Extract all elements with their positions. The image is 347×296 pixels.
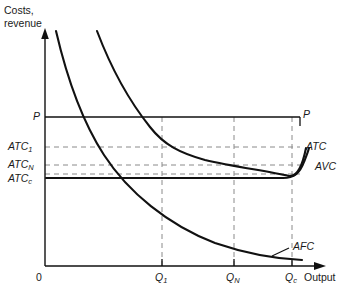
y-axis-title-line2: revenue <box>4 17 42 29</box>
y-axis-title-line1: Costs, <box>4 4 34 16</box>
atc-curve <box>97 31 306 176</box>
x-axis-arrow <box>314 262 326 270</box>
y-tick-sub-atc-n: N <box>28 163 33 172</box>
x-tick-label-q-n: QN <box>226 271 240 283</box>
y-tick-label-atc-n: ATCN <box>8 158 34 170</box>
x-tick-base-q-1: Q <box>155 271 163 283</box>
y-tick-label-atc-c: ATCc <box>8 172 32 184</box>
price-line-label: P <box>303 108 310 120</box>
x-tick-base-q-c: Q <box>285 271 293 283</box>
vertical-guide-lines <box>162 117 292 266</box>
afc-leader-line <box>272 248 289 256</box>
afc-curve-label: AFC <box>293 240 314 252</box>
y-axis-title: Costs,revenue <box>4 4 42 30</box>
x-tick-label-q-1: Q1 <box>155 271 167 283</box>
y-tick-label-price: P <box>33 110 40 122</box>
y-tick-sub-atc-1: 1 <box>28 145 32 154</box>
atc-curve-label: ATC <box>306 140 326 152</box>
origin-label: 0 <box>36 271 42 283</box>
y-tick-sub-atc-c: c <box>28 177 32 186</box>
avc-curve-label: AVC <box>315 160 336 172</box>
x-axis-ticks <box>162 259 292 266</box>
x-tick-label-q-c: Qc <box>285 271 297 283</box>
y-axis-arrow <box>41 28 49 39</box>
y-tick-base-atc-c: ATC <box>8 172 28 184</box>
y-tick-base-atc-1: ATC <box>8 140 28 152</box>
x-tick-sub-q-c: c <box>293 276 297 285</box>
cost-curves-figure: Costs,revenue P ATC1 ATCN ATCc Q1 QN Qc … <box>0 0 347 296</box>
y-tick-base-atc-n: ATC <box>8 158 28 170</box>
y-tick-label-atc-1: ATC1 <box>8 140 32 152</box>
x-axis-title: Output <box>304 271 336 283</box>
afc-curve <box>56 31 302 260</box>
x-tick-sub-q-1: 1 <box>163 276 167 285</box>
x-tick-sub-q-n: N <box>234 276 239 285</box>
y-tick-base-price: P <box>33 110 40 122</box>
x-tick-base-q-n: Q <box>226 271 234 283</box>
